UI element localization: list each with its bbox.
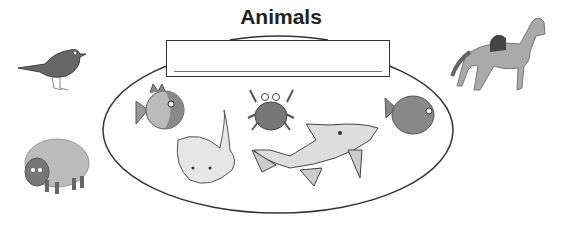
answer-box[interactable]: [166, 40, 390, 77]
stingray-icon: [177, 110, 234, 183]
sheep-icon: [25, 139, 89, 194]
writing-line: [174, 71, 382, 72]
shark-icon: [252, 124, 378, 186]
crab-icon: [248, 90, 294, 130]
horse-icon: [452, 18, 545, 90]
bird-icon: [18, 50, 86, 91]
fish-icon: [385, 96, 434, 134]
worksheet-art: [0, 0, 562, 225]
fish-icon: [136, 84, 184, 129]
